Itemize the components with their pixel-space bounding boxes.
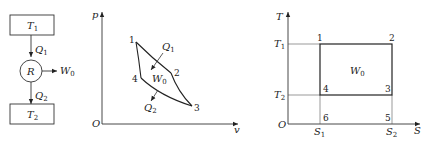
ts-work-label: W0: [350, 65, 365, 78]
pv-point-1: 1: [129, 35, 135, 45]
t2-label: T2: [274, 89, 285, 102]
pv-heat-out-label: Q2: [144, 102, 157, 115]
t-axis-label: T: [276, 11, 284, 22]
pv-heat-out-arrow: [151, 90, 158, 101]
heat-out-label: Q2: [35, 90, 48, 103]
pv-point-2: 2: [174, 68, 180, 78]
v-axis-label: v: [234, 124, 240, 135]
s2-label: S2: [386, 126, 397, 139]
ts-point-6: 6: [323, 113, 329, 123]
ts-point-4: 4: [323, 84, 329, 94]
t1-label: T1: [274, 38, 285, 51]
pv-point-4: 4: [132, 74, 138, 84]
pv-diagram: p v O 1 2 3 4 Q1 W0 Q2: [92, 9, 240, 135]
ts-diagram: T S O T1 T2 S1 S2 1 2 3 4 5 6 W0: [274, 11, 421, 139]
ts-point-1: 1: [317, 33, 323, 43]
hot-reservoir-label: T1: [27, 20, 38, 33]
s1-label: S1: [314, 126, 325, 139]
engine-label: R: [26, 66, 35, 77]
pv-point-3: 3: [194, 103, 200, 113]
p-axis-label: p: [92, 9, 99, 20]
carnot-cycle-figure: T1 Q1 R W0 Q2 T2 p v O 1 2 3 4 Q1 W0 Q2: [0, 0, 426, 143]
pv-heat-in-arrow: [151, 53, 163, 70]
cold-reservoir-label: T2: [27, 109, 38, 122]
heat-engine-schematic: T1 Q1 R W0 Q2 T2: [10, 15, 75, 124]
pv-origin-label: O: [92, 118, 100, 129]
heat-in-label: Q1: [35, 44, 48, 57]
ts-point-3: 3: [385, 84, 391, 94]
s-axis-label: S: [414, 125, 421, 136]
ts-origin-label: O: [278, 119, 286, 130]
pv-curve-4-1: [136, 42, 141, 78]
pv-work-label: W0: [152, 73, 167, 86]
pv-heat-in-label: Q1: [162, 41, 175, 54]
work-label: W0: [60, 65, 75, 78]
ts-point-5: 5: [385, 113, 391, 123]
ts-point-2: 2: [389, 33, 395, 43]
